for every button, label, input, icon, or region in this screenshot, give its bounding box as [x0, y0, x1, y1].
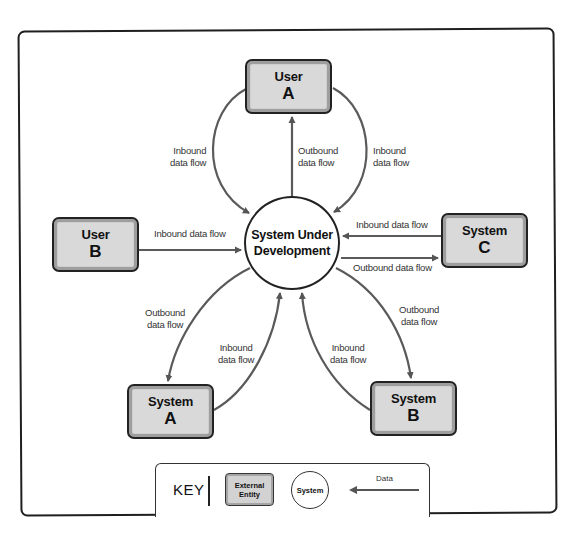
label-system-a-inbound: Inbound data flow	[218, 342, 254, 366]
label-system-c-inbound: Inbound data flow	[356, 219, 428, 231]
label-system-c-outbound: Outbound data flow	[353, 262, 432, 274]
entity-system-b: System B	[370, 381, 457, 436]
label-user-a-inbound-right: Inbound data flow	[373, 145, 409, 169]
label-line2: data flow	[147, 319, 183, 330]
label-line1: Inbound	[373, 145, 406, 156]
label-line1: Outbound	[145, 307, 185, 318]
entity-system-b-line1: System	[391, 391, 436, 406]
entity-user-b: User B	[52, 217, 139, 272]
legend-data-arrow-icon	[156, 464, 431, 518]
label-line1: Outbound	[399, 304, 439, 315]
label-line1: Inbound	[332, 342, 365, 353]
label-user-a-inbound-left: Inbound data flow	[170, 145, 206, 169]
legend-key: KEY External Entity System Data	[155, 463, 430, 517]
label-line2: data flow	[373, 157, 409, 168]
diagram-canvas: User A User B System C System A System B…	[0, 0, 577, 543]
label-line1: Inbound	[173, 145, 206, 156]
label-line2: data flow	[401, 316, 437, 327]
entity-system-c: System C	[441, 213, 528, 268]
entity-system-a: System A	[127, 384, 214, 439]
entity-system-c-line2: C	[478, 238, 490, 258]
label-line2: data flow	[298, 157, 334, 168]
label-system-b-outbound: Outbound data flow	[399, 304, 439, 328]
user-a-inbound-left-arrow	[213, 89, 249, 213]
entity-system-c-line1: System	[462, 223, 507, 238]
label-line1: Outbound	[298, 145, 338, 156]
hub-label-line1: System Under	[251, 228, 333, 242]
entity-user-a: User A	[245, 59, 332, 114]
label-system-b-inbound: Inbound data flow	[330, 342, 366, 366]
hub-label-line2: Development	[254, 244, 330, 258]
entity-system-b-line2: B	[407, 406, 419, 426]
entity-system-a-line1: System	[148, 394, 193, 409]
system-under-development: System Under Development	[244, 196, 340, 290]
label-user-b-inbound: Inbound data flow	[154, 228, 226, 240]
entity-user-a-line1: User	[274, 69, 302, 84]
label-line2: data flow	[218, 354, 254, 365]
entity-system-a-line2: A	[164, 409, 176, 429]
entity-user-b-line1: User	[81, 227, 109, 242]
entity-user-a-line2: A	[282, 84, 294, 104]
entity-user-b-line2: B	[89, 242, 101, 262]
label-line2: data flow	[330, 354, 366, 365]
label-user-a-outbound: Outbound data flow	[298, 145, 338, 169]
label-system-a-outbound: Outbound data flow	[145, 307, 185, 331]
label-line1: Inbound	[220, 342, 253, 353]
hub-label: System Under Development	[251, 227, 333, 259]
label-line2: data flow	[170, 157, 206, 168]
